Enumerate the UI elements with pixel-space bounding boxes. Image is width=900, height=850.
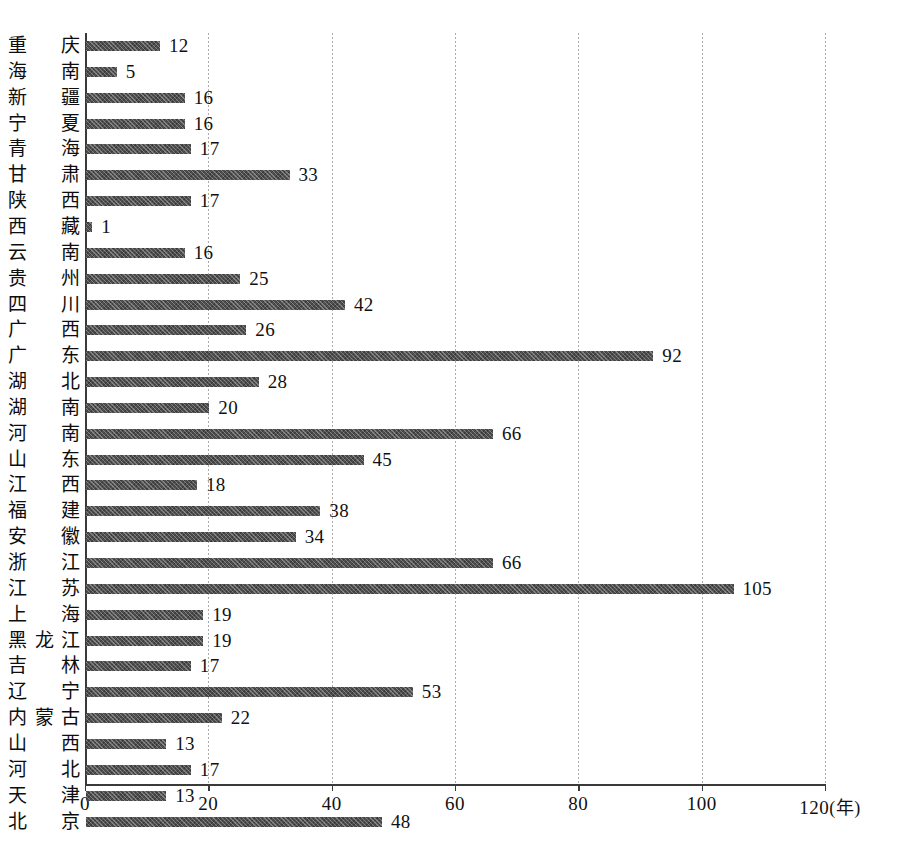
bar-value-河北: 17 [200, 759, 220, 781]
bar-四川 [86, 300, 345, 310]
bar-value-吉林: 17 [200, 655, 220, 677]
bar-value-陕西: 17 [200, 190, 220, 212]
bar-value-上海: 19 [212, 604, 232, 626]
bar-陕西 [86, 196, 191, 206]
bar-value-江苏: 105 [743, 578, 772, 600]
bar-row: 四川42 [0, 292, 900, 318]
bar-新疆 [86, 93, 185, 103]
bar-重庆 [86, 41, 160, 51]
bar-value-云南: 16 [194, 242, 214, 264]
bar-value-山西: 13 [175, 733, 195, 755]
bar-row: 云南16 [0, 240, 900, 266]
bar-row: 新疆16 [0, 85, 900, 111]
category-label-浙江: 浙江 [8, 551, 80, 575]
category-label-吉林: 吉林 [8, 654, 80, 678]
bar-row: 北京48 [0, 809, 900, 835]
bar-value-四川: 42 [354, 294, 374, 316]
bar-row: 河北17 [0, 757, 900, 783]
horizontal-bar-chart: 020406080100120(年) 重庆12海南5新疆16宁夏16青海17甘肃… [0, 0, 900, 850]
bar-天津 [86, 791, 166, 801]
category-label-陕西: 陕西 [8, 189, 80, 213]
category-label-天津: 天津 [8, 784, 80, 808]
bar-value-黑龙江: 19 [212, 630, 232, 652]
bar-云南 [86, 248, 185, 258]
category-label-江西: 江西 [8, 473, 80, 497]
bar-row: 广西26 [0, 317, 900, 343]
category-label-西藏: 西藏 [8, 215, 80, 239]
bar-河南 [86, 429, 493, 439]
bar-value-广西: 26 [255, 319, 275, 341]
category-label-广东: 广东 [8, 344, 80, 368]
bar-value-安徽: 34 [305, 526, 325, 548]
bar-value-广东: 92 [662, 345, 682, 367]
bar-value-天津: 13 [175, 785, 195, 807]
bar-row: 辽宁53 [0, 679, 900, 705]
bar-row: 江西18 [0, 472, 900, 498]
bar-value-甘肃: 33 [299, 164, 319, 186]
bar-row: 上海19 [0, 602, 900, 628]
bar-黑龙江 [86, 636, 203, 646]
bar-row: 福建38 [0, 498, 900, 524]
bar-row: 黑龙江19 [0, 628, 900, 654]
bar-江西 [86, 480, 197, 490]
bar-value-新疆: 16 [194, 87, 214, 109]
bar-河北 [86, 765, 191, 775]
bar-row: 甘肃33 [0, 162, 900, 188]
category-label-云南: 云南 [8, 241, 80, 265]
bar-value-贵州: 25 [249, 268, 269, 290]
bar-value-宁夏: 16 [194, 113, 214, 135]
bar-value-浙江: 66 [502, 552, 522, 574]
bar-row: 西藏1 [0, 214, 900, 240]
category-label-四川: 四川 [8, 293, 80, 317]
bar-row: 湖南20 [0, 395, 900, 421]
bar-row: 江苏105 [0, 576, 900, 602]
bar-value-青海: 17 [200, 138, 220, 160]
category-label-内蒙古: 内蒙古 [8, 706, 80, 730]
bar-row: 安徽34 [0, 524, 900, 550]
bar-row: 贵州25 [0, 266, 900, 292]
bar-贵州 [86, 274, 240, 284]
category-label-海南: 海南 [8, 60, 80, 84]
bar-row: 广东92 [0, 343, 900, 369]
bar-上海 [86, 610, 203, 620]
bar-福建 [86, 506, 320, 516]
bar-value-西藏: 1 [101, 216, 111, 238]
category-label-重庆: 重庆 [8, 34, 80, 58]
category-label-山东: 山东 [8, 448, 80, 472]
category-label-福建: 福建 [8, 499, 80, 523]
bar-row: 陕西17 [0, 188, 900, 214]
bar-广西 [86, 325, 246, 335]
category-label-河南: 河南 [8, 422, 80, 446]
bar-row: 山东45 [0, 447, 900, 473]
bar-广东 [86, 351, 653, 361]
bar-甘肃 [86, 170, 290, 180]
bar-value-江西: 18 [206, 474, 226, 496]
category-label-山西: 山西 [8, 732, 80, 756]
bar-value-福建: 38 [329, 500, 349, 522]
category-label-广西: 广西 [8, 318, 80, 342]
category-label-宁夏: 宁夏 [8, 112, 80, 136]
bar-row: 山西13 [0, 731, 900, 757]
bar-value-山东: 45 [373, 449, 393, 471]
bar-row: 吉林17 [0, 653, 900, 679]
bar-row: 重庆12 [0, 33, 900, 59]
bar-value-辽宁: 53 [422, 681, 442, 703]
category-label-贵州: 贵州 [8, 267, 80, 291]
bar-湖南 [86, 403, 209, 413]
bar-value-内蒙古: 22 [231, 707, 251, 729]
bar-row: 宁夏16 [0, 111, 900, 137]
bar-宁夏 [86, 119, 185, 129]
bar-江苏 [86, 584, 734, 594]
bar-海南 [86, 67, 117, 77]
bar-西藏 [86, 222, 92, 232]
category-label-湖北: 湖北 [8, 370, 80, 394]
category-label-青海: 青海 [8, 137, 80, 161]
bar-row: 青海17 [0, 136, 900, 162]
bar-value-湖南: 20 [218, 397, 238, 419]
bar-row: 浙江66 [0, 550, 900, 576]
bar-row: 内蒙古22 [0, 705, 900, 731]
bar-青海 [86, 144, 191, 154]
bar-row: 天津13 [0, 783, 900, 809]
category-label-辽宁: 辽宁 [8, 680, 80, 704]
category-label-黑龙江: 黑龙江 [8, 629, 80, 653]
